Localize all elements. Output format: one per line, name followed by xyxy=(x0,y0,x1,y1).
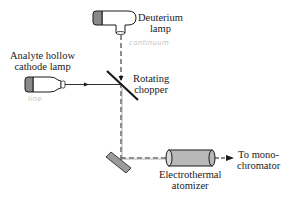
hollow-cathode-lamp-label: Analyte hollow cathode lamp xyxy=(10,50,75,72)
to-monochromator-label: To mono- chromator xyxy=(237,149,280,171)
arrow-right-icon xyxy=(84,83,89,87)
electrothermal-atomizer-icon xyxy=(166,150,215,166)
label-line: Analyte hollow xyxy=(10,50,75,61)
hollow-cathode-lamp-icon xyxy=(25,77,65,92)
label-line: cathode lamp xyxy=(10,61,75,72)
label-line: chromator xyxy=(237,160,280,171)
deuterium-lamp-label: Deuterium lamp xyxy=(138,12,183,34)
label-line: Rotating xyxy=(133,73,169,84)
electrothermal-atomizer-label: Electrothermal atomizer xyxy=(159,169,221,191)
label-line: lamp xyxy=(138,23,183,34)
arrow-down-icon xyxy=(119,76,124,81)
deuterium-lamp-icon xyxy=(93,11,136,35)
continuum-annotation: continuum xyxy=(129,39,169,47)
line-annotation: line xyxy=(28,95,42,103)
label-line: atomizer xyxy=(159,180,221,191)
label-line: Electrothermal xyxy=(159,169,221,180)
label-line: To mono- xyxy=(237,149,280,160)
arrow-right-output-icon xyxy=(226,155,234,161)
label-line: Deuterium xyxy=(138,12,183,23)
label-line: chopper xyxy=(133,84,169,95)
rotating-chopper-label: Rotating chopper xyxy=(133,73,169,95)
mirror-icon xyxy=(106,152,131,173)
